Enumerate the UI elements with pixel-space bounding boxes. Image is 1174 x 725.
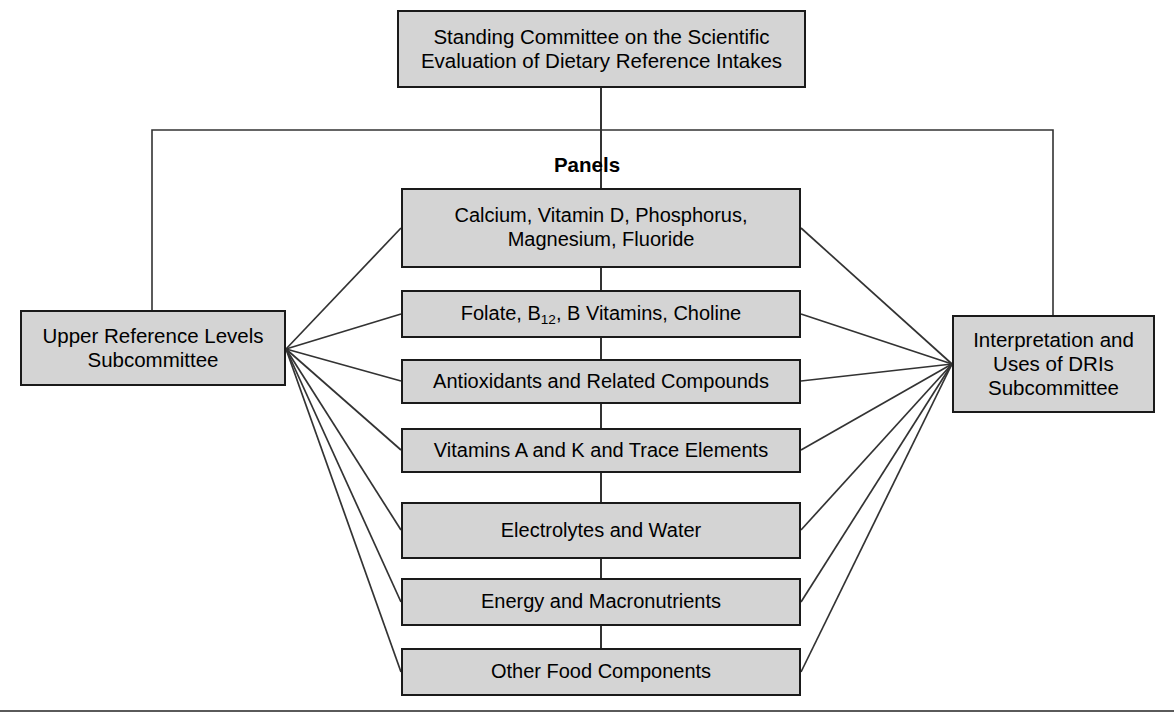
left-fan-line-0 [286, 228, 401, 349]
panel-box-antioxidants[interactable]: Antioxidants and Related Compounds [401, 359, 801, 404]
standing-committee-label: Standing Committee on the Scientific Eva… [415, 25, 788, 73]
panel-box-folate-b-vitamins[interactable]: Folate, B12, B Vitamins, Choline [401, 290, 801, 338]
panel-label-1: Folate, B12, B Vitamins, Choline [455, 302, 747, 326]
panel-label-1-suffix: , B Vitamins, Choline [556, 302, 741, 324]
upper-reference-levels-subcommittee-label: Upper Reference Levels Subcommittee [36, 324, 269, 372]
panel-box-vitamins-a-k-trace-elements[interactable]: Vitamins A and K and Trace Elements [401, 428, 801, 473]
panel-label-3: Vitamins A and K and Trace Elements [428, 439, 774, 463]
panel-box-electrolytes-water[interactable]: Electrolytes and Water [401, 502, 801, 559]
left-fan-line-3 [286, 349, 401, 450]
right-fan-line-3 [801, 364, 952, 450]
right-fan-line-0 [801, 228, 952, 364]
interpretation-uses-dris-subcommittee-label: Interpretation and Uses of DRIs Subcommi… [967, 328, 1140, 401]
right-fan-line-6 [801, 364, 952, 672]
interpretation-uses-dris-subcommittee-box[interactable]: Interpretation and Uses of DRIs Subcommi… [952, 315, 1155, 413]
left-fan [286, 228, 401, 672]
left-fan-line-1 [286, 314, 401, 349]
panel-label-5: Energy and Macronutrients [475, 590, 727, 614]
right-fan [801, 228, 952, 672]
left-fan-line-4 [286, 349, 401, 530]
left-fan-line-6 [286, 349, 401, 672]
panel-label-0: Calcium, Vitamin D, Phosphorus, Magnesiu… [448, 204, 753, 251]
organization-diagram: Standing Committee on the Scientific Eva… [0, 0, 1174, 725]
right-fan-line-2 [801, 364, 952, 381]
right-fan-line-5 [801, 364, 952, 602]
right-fan-line-1 [801, 314, 952, 364]
standing-committee-box[interactable]: Standing Committee on the Scientific Eva… [397, 10, 806, 88]
panel-label-4: Electrolytes and Water [495, 519, 707, 543]
upper-reference-levels-subcommittee-box[interactable]: Upper Reference Levels Subcommittee [20, 310, 286, 386]
bottom-divider-rule [0, 710, 1174, 712]
panel-box-other-food-components[interactable]: Other Food Components [401, 648, 801, 696]
panel-label-2: Antioxidants and Related Compounds [427, 370, 775, 394]
left-fan-line-5 [286, 349, 401, 602]
panel-label-6: Other Food Components [485, 660, 717, 684]
panel-label-1-prefix: Folate, B [461, 302, 541, 324]
panel-label-1-subscript: 12 [541, 312, 556, 327]
panel-box-energy-macronutrients[interactable]: Energy and Macronutrients [401, 578, 801, 626]
panel-box-calcium-vitamin-d[interactable]: Calcium, Vitamin D, Phosphorus, Magnesiu… [401, 188, 801, 268]
panels-heading: Panels [0, 153, 1174, 177]
right-fan-line-4 [801, 364, 952, 530]
left-fan-line-2 [286, 349, 401, 381]
